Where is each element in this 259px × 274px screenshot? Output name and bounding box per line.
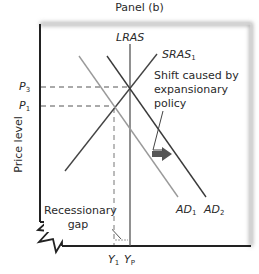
gap-annotation-line1: Recessionary — [44, 204, 112, 218]
y-axis-label: Price level — [12, 115, 25, 175]
ad1-label-main: AD — [176, 203, 192, 216]
yp-label-main: Y — [124, 253, 131, 266]
p1-label-main: P — [19, 99, 26, 112]
shift-annotation-line1: Shift caused by — [154, 69, 239, 83]
shift-annotation: Shift caused by expansionary policy — [154, 69, 239, 111]
ad1-label: AD1 — [176, 204, 196, 219]
ad1-label-sub: 1 — [192, 209, 196, 217]
yp-label-sub: P — [131, 259, 135, 267]
sras1-label: SRAS1 — [162, 49, 196, 64]
shift-pointer — [153, 111, 163, 150]
yp-label: YP — [124, 254, 135, 269]
p3-label-main: P — [19, 80, 26, 93]
y1-label: Y1 — [108, 254, 119, 269]
p1-label: P1 — [19, 100, 30, 115]
ad2-label-sub: 2 — [220, 209, 224, 217]
y1-label-sub: 1 — [115, 259, 119, 267]
ad2-label: AD2 — [204, 204, 224, 219]
sras1-label-sub: 1 — [191, 54, 195, 62]
panel-title: Panel (b) — [10, 1, 259, 14]
recessionary-gap-annotation: Recessionary gap — [44, 204, 112, 232]
shift-annotation-line3: policy — [154, 97, 239, 111]
y1-label-main: Y — [108, 253, 115, 266]
ad2-label-main: AD — [204, 203, 220, 216]
gap-annotation-line2: gap — [44, 218, 112, 232]
shift-arrow-icon — [152, 147, 172, 161]
shift-annotation-line2: expansionary — [154, 83, 239, 97]
p1-label-sub: 1 — [26, 105, 30, 113]
lras-label: LRAS — [116, 32, 144, 44]
sras1-line — [65, 54, 157, 171]
sras1-label-main: SRAS — [162, 48, 191, 61]
p3-label: P3 — [19, 81, 30, 96]
p3-label-sub: 3 — [26, 86, 30, 94]
